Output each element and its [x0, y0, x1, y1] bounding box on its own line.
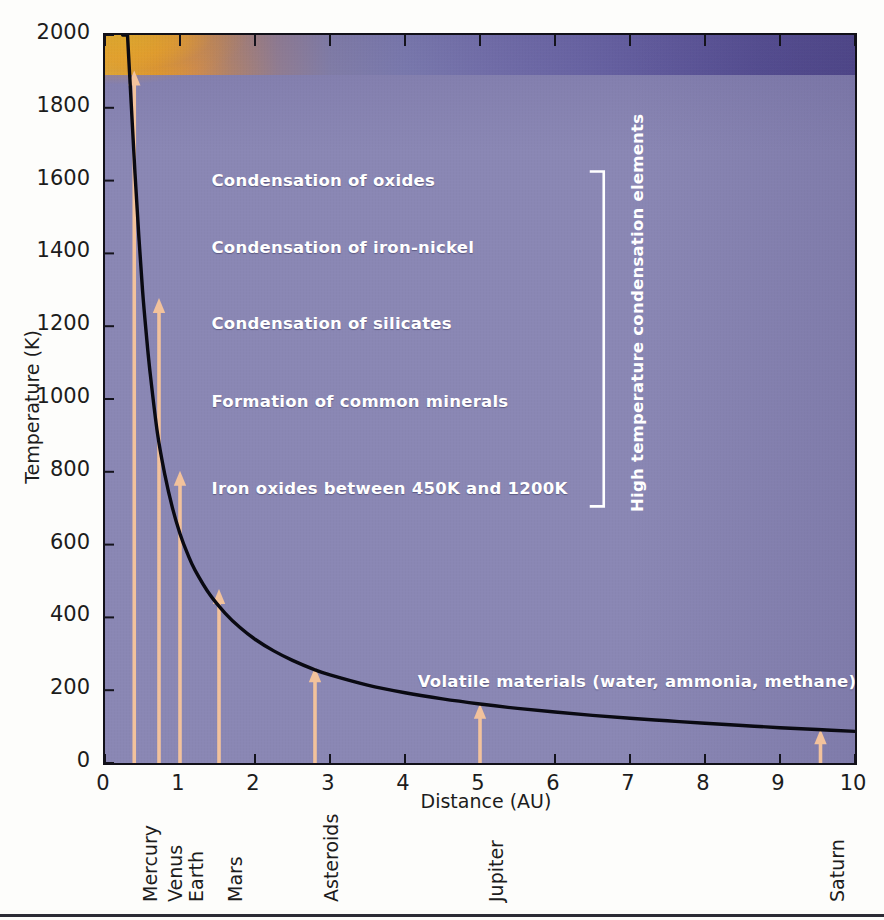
planet-label-mercury: Mercury	[139, 825, 161, 902]
y-tick-label: 1400	[18, 238, 90, 262]
x-tick-label: 1	[155, 771, 201, 795]
x-axis-title: Distance (AU)	[396, 790, 576, 812]
y-tick-label: 0	[18, 748, 90, 772]
plot-area: Condensation of oxidesCondensation of ir…	[103, 33, 857, 765]
y-tick-label: 600	[18, 530, 90, 554]
planet-label-asteroids: Asteroids	[320, 814, 342, 902]
x-tick-label: 10	[830, 771, 876, 795]
y-axis-title: Temperature (K)	[21, 307, 43, 507]
y-tick-label: 2000	[18, 20, 90, 44]
bracket-label: High temperature condensation elements	[628, 114, 647, 512]
x-tick-label: 0	[80, 771, 126, 795]
x-tick-label: 2	[230, 771, 276, 795]
x-tick-label: 3	[305, 771, 351, 795]
planet-label-mars: Mars	[224, 856, 246, 902]
plot-annotation: Volatile materials (water, ammonia, meth…	[418, 672, 856, 691]
plot-annotation: Condensation of silicates	[212, 314, 452, 333]
y-tick-label: 400	[18, 602, 90, 626]
page-bottom-rule	[0, 914, 884, 917]
x-tick-label: 9	[755, 771, 801, 795]
y-tick-label: 200	[18, 675, 90, 699]
condensation-bracket	[590, 172, 604, 507]
x-tick-label: 7	[605, 771, 651, 795]
planet-label-jupiter: Jupiter	[485, 840, 507, 902]
plot-annotation: Formation of common minerals	[212, 392, 509, 411]
planet-label-earth: Earth	[185, 851, 207, 902]
planet-label-saturn: Saturn	[826, 839, 848, 902]
plot-annotation: Condensation of oxides	[212, 171, 435, 190]
figure-canvas: Condensation of oxidesCondensation of ir…	[0, 0, 884, 920]
planet-label-venus: Venus	[164, 845, 186, 902]
y-tick-label: 1600	[18, 166, 90, 190]
plot-annotation: Iron oxides between 450K and 1200K	[212, 479, 568, 498]
temperature-curve	[123, 35, 855, 731]
x-tick-label: 8	[680, 771, 726, 795]
plot-annotation: Condensation of iron-nickel	[212, 238, 475, 257]
y-tick-label: 1800	[18, 93, 90, 117]
